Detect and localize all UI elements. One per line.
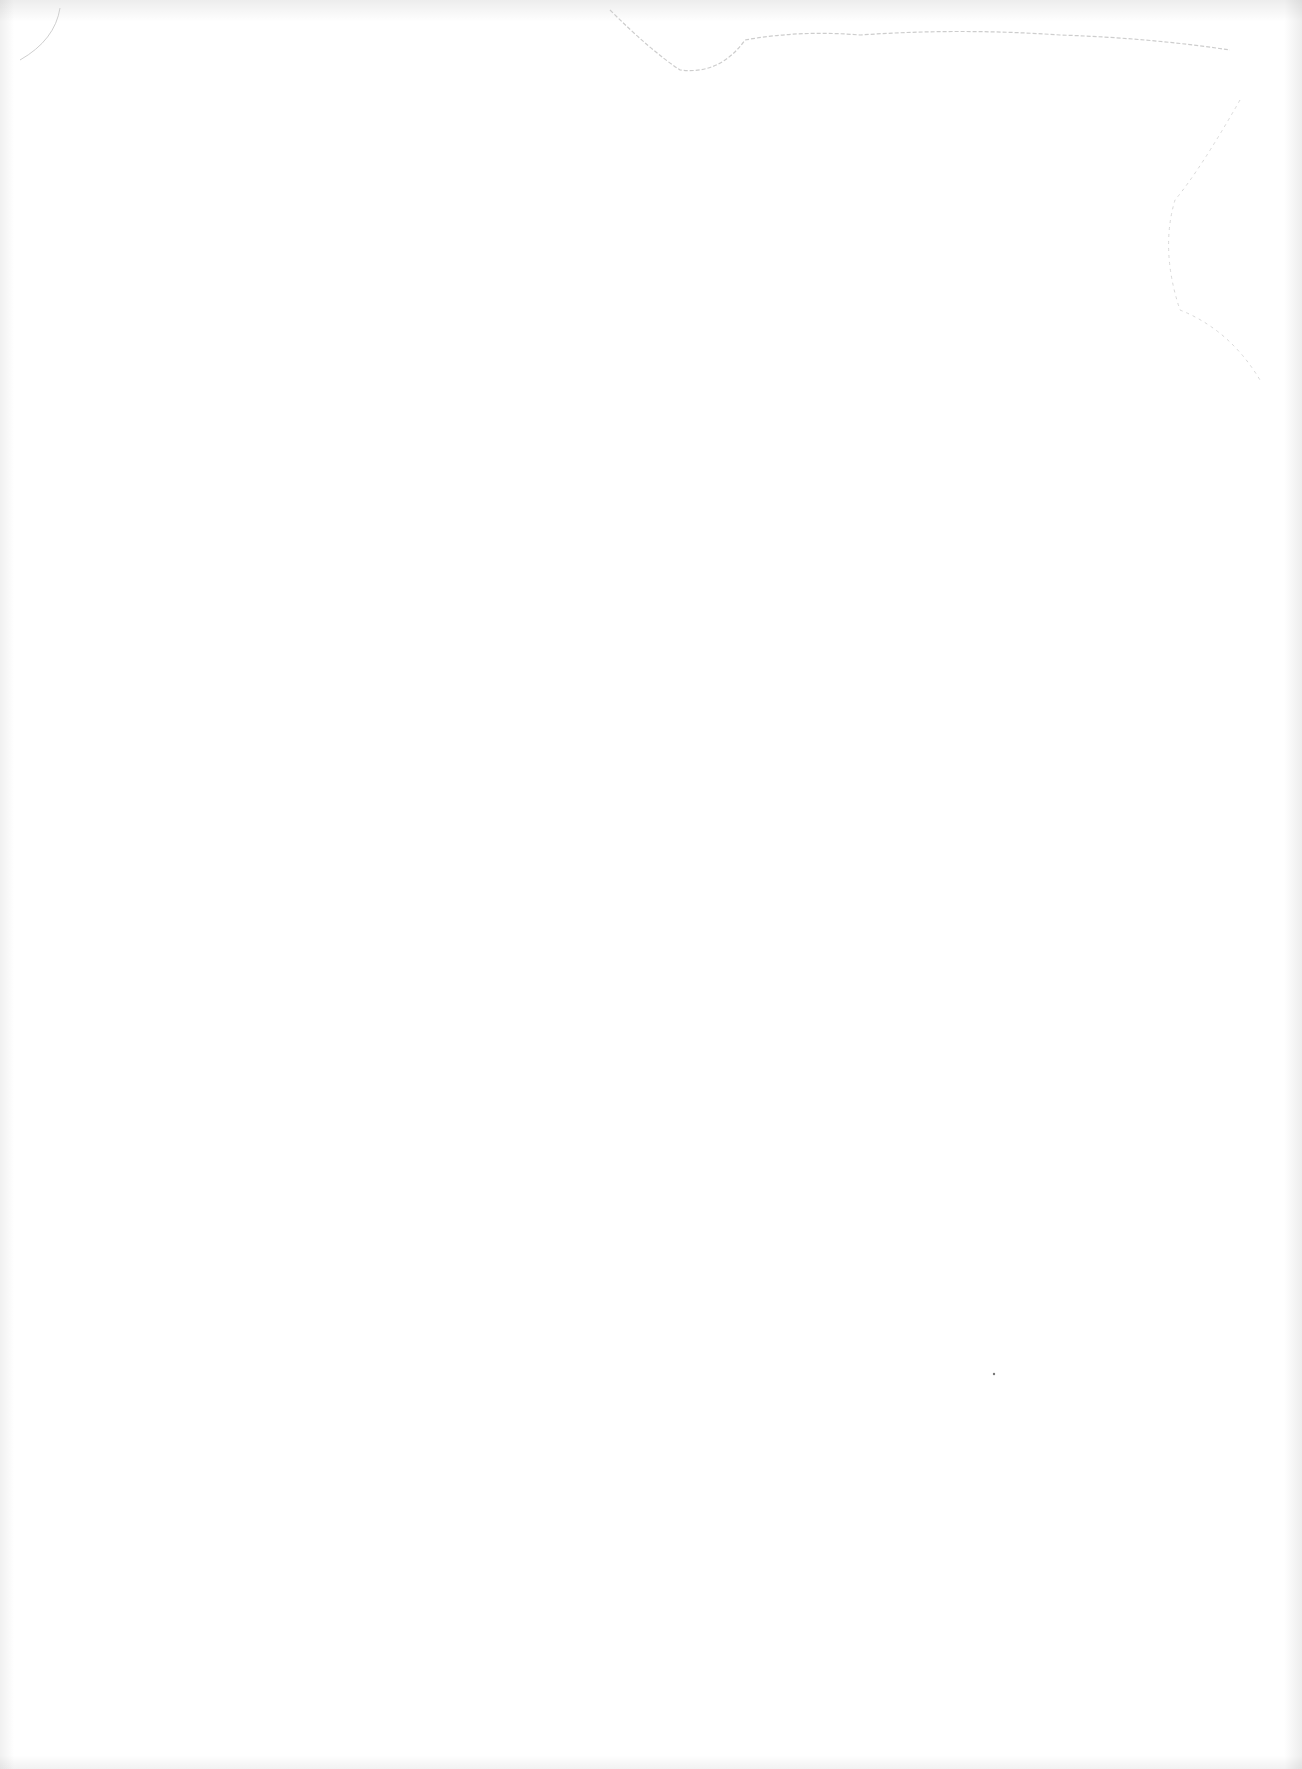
blank-page [0, 0, 1302, 1769]
paper-crease-lines [0, 0, 1302, 1769]
